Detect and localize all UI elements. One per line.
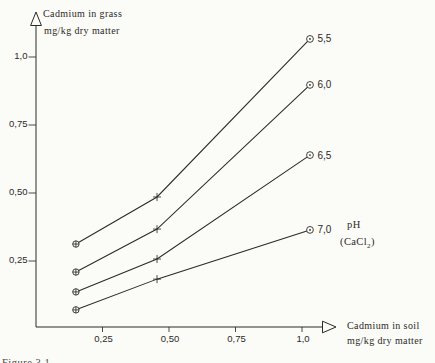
- y-tick-label: 0,75: [9, 118, 28, 129]
- y-tick-label: 0,50: [9, 186, 28, 197]
- x-tick-label: 0,25: [94, 333, 113, 344]
- figure-cadmium-uptake: 0,250,500,751,00,250,500,751,05,56,06,57…: [0, 0, 435, 363]
- y-axis-title-line2: mg/kg dry matter: [44, 25, 120, 36]
- x-tick-label: 1,0: [296, 333, 309, 344]
- x-tick-label: 0,50: [161, 333, 180, 344]
- y-axis-arrowhead-icon: [31, 12, 42, 26]
- x-axis-arrowhead-icon: [323, 321, 337, 333]
- legend-cacl2-suffix: ): [371, 236, 375, 247]
- y-axis-title-line1: Cadmium in grass: [43, 8, 122, 19]
- legend-cacl2-prefix: (CaCl: [340, 236, 367, 247]
- cropped-caption-fragment: Figure 3.1: [2, 357, 202, 363]
- legend-cacl2: (CaCl2): [340, 236, 375, 250]
- series-label-ph-6: 6,0: [317, 79, 331, 90]
- x-tick-label: 0,75: [227, 333, 246, 344]
- series-label-ph-7: 7,0: [317, 224, 331, 235]
- series-label-ph-5.5: 5,5: [317, 33, 331, 44]
- y-tick-label: 0,25: [9, 254, 28, 265]
- series-line-ph-7: [76, 230, 310, 310]
- marker-center-dot: [309, 38, 311, 40]
- series-label-ph-6.5: 6,5: [317, 150, 331, 161]
- legend-ph-title: pH: [347, 219, 361, 230]
- x-axis-title-line2: mg/kg dry matter: [347, 335, 423, 346]
- series-line-ph-5.5: [76, 39, 310, 244]
- y-tick-label: 1,0: [14, 50, 27, 61]
- marker-center-dot: [309, 229, 311, 231]
- marker-center-dot: [309, 154, 311, 156]
- x-axis-title-line1: Cadmium in soil: [347, 320, 420, 331]
- marker-center-dot: [309, 84, 311, 86]
- chart-canvas: 0,250,500,751,00,250,500,751,05,56,06,57…: [0, 0, 435, 363]
